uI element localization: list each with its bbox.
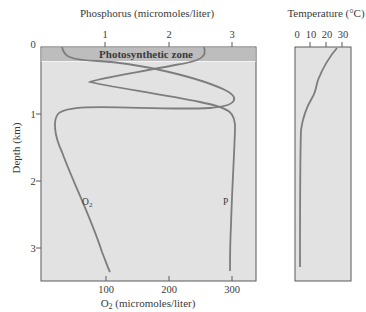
temperature-tick-0: 0 [294, 29, 299, 40]
figure: Photosynthetic zone O2 P Phosphorus (mic… [0, 0, 366, 312]
o2-tick-200: 200 [161, 284, 177, 295]
temperature-tick-30: 30 [338, 29, 349, 40]
phosphorus-tick-2: 2 [166, 29, 171, 40]
temperature-tick-10: 10 [306, 29, 317, 40]
o2-tick-300: 300 [224, 284, 240, 295]
main-plot-area [41, 47, 256, 281]
temperature-plot-area [295, 47, 351, 281]
band-label: Photosynthetic zone [99, 48, 193, 60]
depth-axis-title: Depth (km) [10, 122, 23, 173]
depth-tick-0: 0 [30, 39, 35, 50]
depth-tick-3: 3 [30, 243, 35, 254]
o2-tick-100: 100 [98, 284, 114, 295]
main-panel: Photosynthetic zone O2 P Phosphorus (mic… [10, 7, 256, 311]
temperature-panel: Temperature (°C) 0 10 20 30 [287, 7, 365, 281]
depth-tick-2: 2 [30, 176, 35, 187]
o2-axis-title: O2 (micromoles/liter) [101, 297, 196, 311]
temperature-axis-title: Temperature (°C) [287, 7, 365, 20]
phosphorus-tick-3: 3 [229, 29, 234, 40]
phosphorus-tick-1: 1 [102, 29, 107, 40]
p-curve-label: P [223, 197, 228, 207]
depth-tick-1: 1 [30, 109, 35, 120]
phosphorus-ticks [105, 42, 232, 47]
depth-ticks [36, 114, 41, 248]
temperature-tick-20: 20 [322, 29, 333, 40]
temperature-ticks [310, 42, 342, 47]
phosphorus-axis-title: Phosphorus (micromoles/liter) [80, 7, 214, 20]
